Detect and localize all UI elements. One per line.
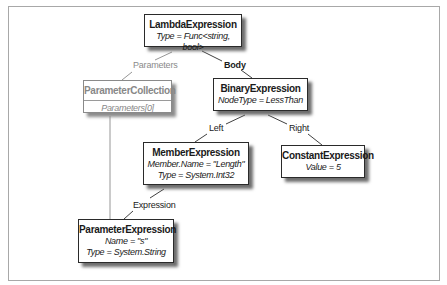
edge-label-right: Right [289,123,309,134]
node-prop-type: Type = Func<string, bool> [145,31,241,53]
edge-label-body: Body [224,60,246,71]
node-binary-expression: BinaryExpression NodeType = LessThan [213,78,308,111]
node-member-expression: MemberExpression Member.Name = "Length" … [143,142,249,185]
node-title: ParameterCollection [84,81,171,97]
node-prop-parameters: Parameters[0] [84,100,171,114]
edge-label-left: Left [209,123,223,134]
node-lambda-expression: LambdaExpression Type = Func<string, boo… [144,14,242,47]
node-parameter-collection: ParameterCollection Parameters[0] [83,80,172,113]
edge-label-parameters: Parameters [133,60,178,71]
node-title: MemberExpression [144,143,248,159]
node-prop-member-name: Member.Name = "Length" [144,159,248,170]
node-parameter-expression: ParameterExpression Name = "s" Type = Sy… [78,219,174,263]
node-title: BinaryExpression [214,79,307,95]
edge-label-expression: Expression [133,200,176,211]
node-prop-nodetype: NodeType = LessThan [214,95,307,106]
node-title: ParameterExpression [79,220,173,236]
node-title: ConstantExpression [282,146,364,162]
node-prop-type: Type = System.String [79,247,173,258]
node-prop-type: Type = System.Int32 [144,170,248,181]
node-constant-expression: ConstantExpression Value = 5 [281,145,365,178]
node-prop-name: Name = "s" [79,236,173,247]
node-title: LambdaExpression [145,15,241,31]
node-prop-value: Value = 5 [282,162,364,173]
